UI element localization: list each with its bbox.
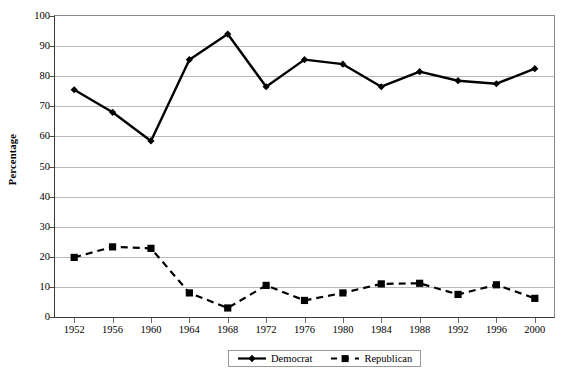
y-axis-tick-mark: [49, 257, 54, 258]
y-axis-tick-label: 40: [24, 191, 50, 202]
y-axis-tick-label: 10: [24, 282, 50, 293]
y-axis-tick-mark: [49, 317, 54, 318]
gridline: [55, 46, 554, 47]
x-axis-tick-mark: [189, 318, 190, 323]
y-axis-tick-mark: [49, 16, 54, 17]
square-marker: [330, 353, 360, 364]
x-axis-tick-label: 1984: [371, 325, 392, 336]
gridline: [55, 257, 554, 258]
y-axis-tick-label: 20: [24, 252, 50, 263]
x-axis-tick-label: 1976: [294, 325, 315, 336]
x-axis-tick-label: 1988: [409, 325, 430, 336]
y-axis-tick-label: 80: [24, 71, 50, 82]
y-axis-tick-mark: [49, 76, 54, 77]
y-axis-tick-mark: [49, 287, 54, 288]
x-axis-tick-mark: [458, 318, 459, 323]
diamond-marker: [237, 353, 267, 364]
x-axis-tick-mark: [381, 318, 382, 323]
chart-legend: DemocratRepublican: [228, 350, 421, 367]
x-axis-tick-mark: [305, 318, 306, 323]
gridline: [55, 287, 554, 288]
legend-item: Democrat: [237, 353, 312, 364]
x-axis-tick-mark: [420, 318, 421, 323]
y-axis-title: Percentage: [2, 0, 24, 318]
x-axis-tick-label: 1960: [140, 325, 161, 336]
legend-item-label: Democrat: [271, 353, 312, 364]
x-axis-tick-mark: [535, 318, 536, 323]
y-axis-tick-label: 100: [24, 11, 50, 22]
gridline: [55, 136, 554, 137]
line-chart: Percentage 0102030405060708090100 Democr…: [0, 0, 572, 374]
x-axis-tick-mark: [496, 318, 497, 323]
legend-item-label: Republican: [364, 353, 412, 364]
x-axis-tick-mark: [151, 318, 152, 323]
x-axis-tick-mark: [266, 318, 267, 323]
y-axis-tick-mark: [49, 106, 54, 107]
y-axis-tick-label: 70: [24, 101, 50, 112]
x-axis-tick-label: 1956: [102, 325, 123, 336]
y-axis-tick-label: 0: [24, 312, 50, 323]
x-axis-tick-label: 1968: [217, 325, 238, 336]
gridline: [55, 106, 554, 107]
x-axis-tick-mark: [228, 318, 229, 323]
y-axis-title-text: Percentage: [8, 133, 19, 184]
plot-area: [54, 15, 555, 318]
y-axis-tick-label: 50: [24, 161, 50, 172]
gridline: [55, 76, 554, 77]
x-axis-tick-label: 1996: [486, 325, 507, 336]
gridline: [55, 197, 554, 198]
y-axis-tick-mark: [49, 136, 54, 137]
y-axis-tick-label: 60: [24, 131, 50, 142]
x-axis-tick-label: 1952: [64, 325, 85, 336]
y-axis-tick-mark: [49, 167, 54, 168]
y-axis-tick-label: 90: [24, 41, 50, 52]
legend-item: Republican: [330, 353, 412, 364]
x-axis-tick-label: 1992: [448, 325, 469, 336]
x-axis-tick-mark: [113, 318, 114, 323]
y-axis-tick-mark: [49, 227, 54, 228]
y-axis-tick-labels: 0102030405060708090100: [24, 0, 50, 318]
y-axis-tick-mark: [49, 197, 54, 198]
x-axis-tick-mark: [343, 318, 344, 323]
x-axis-tick-label: 1964: [179, 325, 200, 336]
gridline: [55, 227, 554, 228]
x-axis-tick-label: 1980: [332, 325, 353, 336]
x-axis-tick-mark: [74, 318, 75, 323]
x-axis-tick-label: 1972: [256, 325, 277, 336]
y-axis-tick-label: 30: [24, 221, 50, 232]
y-axis-tick-mark: [49, 46, 54, 47]
gridline: [55, 167, 554, 168]
x-axis-tick-label: 2000: [524, 325, 545, 336]
